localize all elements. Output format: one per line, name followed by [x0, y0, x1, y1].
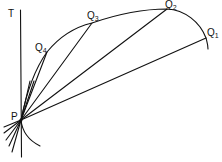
label-Q1: Q1	[207, 27, 219, 39]
label-Q2: Q2	[165, 0, 177, 11]
label-Q4: Q4	[35, 42, 47, 54]
tangent-line-T	[21, 10, 22, 157]
label-P: P	[11, 111, 18, 122]
curve-upper	[21, 9, 208, 120]
secant-PQ3	[21, 23, 92, 120]
curve-lower	[21, 120, 40, 146]
secant-tangent-diagram: T P Q4 Q3 Q2 Q1	[0, 0, 222, 162]
secant-near-1	[21, 81, 34, 120]
point-P	[19, 118, 22, 121]
label-Q3: Q3	[87, 10, 99, 22]
label-T: T	[8, 8, 14, 19]
